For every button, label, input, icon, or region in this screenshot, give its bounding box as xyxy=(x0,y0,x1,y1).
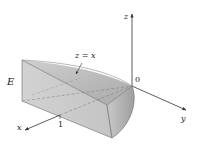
solid-region-diagram: z 0 y x 1 E z = x xyxy=(0,0,197,149)
z-axis-label: z xyxy=(123,12,129,21)
y-axis xyxy=(132,86,186,110)
origin-label: 0 xyxy=(135,75,140,84)
x-axis-label: x xyxy=(17,123,22,132)
y-axis-label: y xyxy=(180,114,186,123)
x-axis xyxy=(25,115,60,130)
x-tick-label: 1 xyxy=(58,120,63,129)
solid-label: E xyxy=(6,76,15,87)
surface-label: z = x xyxy=(74,51,96,60)
